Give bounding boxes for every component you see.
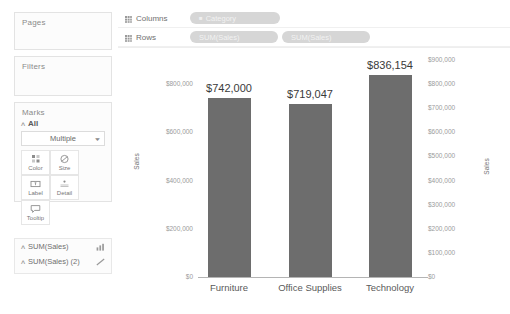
mark-type-value: Multiple bbox=[50, 134, 76, 143]
pages-title: Pages bbox=[15, 13, 111, 27]
y-tick-label-right: $600,000 bbox=[428, 128, 455, 135]
y-tick-label-right: $100,000 bbox=[428, 249, 455, 256]
detail-icon bbox=[59, 179, 70, 189]
color-icon bbox=[31, 154, 41, 164]
marks-all-label: All bbox=[28, 119, 38, 128]
marks-tooltip-label: Tooltip bbox=[27, 215, 44, 221]
pill-label: SUM(Sales) bbox=[199, 33, 239, 42]
x-axis-category-label[interactable]: Technology bbox=[340, 282, 440, 293]
y-axis-title-right: Sales bbox=[483, 158, 490, 174]
rows-shelf-header: Rows bbox=[118, 28, 190, 46]
label-icon bbox=[30, 179, 41, 189]
filters-card[interactable]: Filters bbox=[14, 56, 112, 96]
marks-card: Marks ∧ All Multiple ▼ Color bbox=[14, 102, 112, 202]
dimension-icon: ■ bbox=[199, 15, 203, 21]
pill-sum-sales-2[interactable]: SUM(Sales) bbox=[282, 31, 370, 43]
tooltip-icon bbox=[30, 204, 41, 214]
y-tick-label-right: $800,000 bbox=[428, 80, 455, 87]
marks-detail-label: Detail bbox=[57, 190, 72, 196]
pill-label: SUM(Sales) bbox=[291, 33, 331, 42]
y-tick-label-right: $200,000 bbox=[428, 225, 455, 232]
bar[interactable] bbox=[369, 75, 412, 277]
y-tick-label-left: $200,000 bbox=[166, 225, 193, 232]
marks-label-button[interactable]: Label bbox=[21, 175, 50, 200]
grid-icon bbox=[125, 9, 132, 27]
y-axis-right-ticks: $0$100,000$200,000$300,000$400,000$500,0… bbox=[428, 48, 478, 314]
bar[interactable] bbox=[208, 98, 251, 277]
bar-value-label: $742,000 bbox=[184, 82, 274, 94]
marks-size-label: Size bbox=[59, 165, 71, 171]
marks-buttons: Color Size Label bbox=[21, 150, 105, 225]
bar-value-label: $836,154 bbox=[345, 59, 435, 71]
grid-icon bbox=[125, 28, 132, 46]
chart-area: Sales Sales $0$200,000$400,000$600,000$8… bbox=[118, 48, 510, 314]
y-tick-label-left: $600,000 bbox=[166, 128, 193, 135]
pill-sum-sales-1[interactable]: SUM(Sales) bbox=[190, 31, 278, 43]
chevron-down-icon: ▼ bbox=[94, 136, 102, 142]
measure-card-sum-sales[interactable]: ∧ SUM(Sales) bbox=[15, 239, 111, 254]
marks-size-button[interactable]: Size bbox=[50, 150, 79, 175]
left-panel: Pages Filters Marks ∧ All Multiple ▼ bbox=[0, 0, 118, 314]
measure-name: SUM(Sales) bbox=[28, 242, 93, 251]
marks-color-label: Color bbox=[28, 165, 42, 171]
y-tick-label-right: $500,000 bbox=[428, 152, 455, 159]
columns-shelf[interactable]: Columns ■ Category bbox=[118, 9, 510, 28]
marks-color-button[interactable]: Color bbox=[21, 150, 50, 175]
marks-all-row[interactable]: ∧ All bbox=[15, 117, 111, 128]
shelf-area: Columns ■ Category Rows bbox=[118, 0, 510, 48]
marks-detail-button[interactable]: Detail bbox=[50, 175, 79, 200]
measures-card: ∧ SUM(Sales) ∧ SUM(Sales) (2) bbox=[14, 238, 112, 274]
columns-shelf-header: Columns bbox=[118, 9, 190, 27]
marks-tooltip-button[interactable]: Tooltip bbox=[21, 200, 50, 225]
pages-card[interactable]: Pages bbox=[14, 12, 112, 50]
pill-label: Category bbox=[206, 14, 236, 23]
pill-category[interactable]: ■ Category bbox=[190, 12, 280, 24]
chevron-down-icon: ∧ bbox=[20, 244, 26, 250]
y-tick-label-right: $700,000 bbox=[428, 104, 455, 111]
line-chart-icon bbox=[96, 258, 105, 266]
rows-shelf[interactable]: Rows SUM(Sales) SUM(Sales) bbox=[118, 28, 510, 47]
y-tick-label-right: $300,000 bbox=[428, 201, 455, 208]
chevron-down-icon: ∧ bbox=[20, 121, 26, 127]
size-icon bbox=[59, 154, 70, 164]
marks-title: Marks bbox=[15, 103, 111, 117]
mark-type-dropdown[interactable]: Multiple ▼ bbox=[21, 131, 105, 146]
bar-chart-icon bbox=[96, 243, 105, 251]
columns-shelf-label: Columns bbox=[136, 14, 168, 23]
bar[interactable] bbox=[289, 104, 332, 277]
y-tick-label-left: $0 bbox=[186, 273, 193, 280]
filters-title: Filters bbox=[15, 57, 111, 71]
marks-label-label: Label bbox=[28, 190, 43, 196]
y-tick-label-right: $400,000 bbox=[428, 177, 455, 184]
y-tick-label-right: $0 bbox=[428, 273, 435, 280]
rows-shelf-label: Rows bbox=[136, 33, 156, 42]
bar-value-label: $719,047 bbox=[265, 88, 355, 100]
y-tick-label-left: $400,000 bbox=[166, 177, 193, 184]
measure-name: SUM(Sales) (2) bbox=[28, 257, 93, 266]
chevron-down-icon: ∧ bbox=[20, 259, 26, 265]
measure-card-sum-sales-2[interactable]: ∧ SUM(Sales) (2) bbox=[15, 254, 111, 269]
